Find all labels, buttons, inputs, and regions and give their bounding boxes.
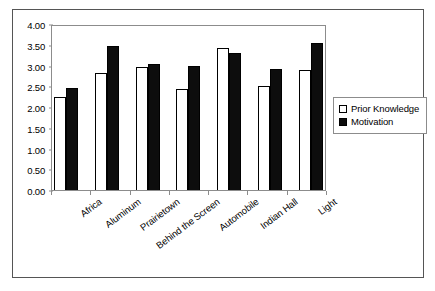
x-axis-tick-mark xyxy=(287,191,288,195)
x-axis-tick-label: Africa xyxy=(78,196,104,219)
bar-prior-knowledge xyxy=(217,48,229,190)
bar-motivation xyxy=(311,43,323,190)
chart-frame: 0.000.501.001.502.002.503.003.504.00 Afr… xyxy=(12,9,424,278)
bar-motivation xyxy=(148,64,160,190)
bar-motivation xyxy=(188,66,200,191)
legend-label: Motivation xyxy=(351,115,393,128)
x-axis-tick-mark xyxy=(90,191,91,195)
y-axis-tick-label: 3.00 xyxy=(27,61,45,72)
y-axis-tick-label: 2.00 xyxy=(27,103,45,114)
bar-group xyxy=(176,26,200,190)
bar-motivation xyxy=(270,69,282,190)
x-axis-tick-mark xyxy=(247,191,248,195)
bar-group xyxy=(95,26,119,190)
x-axis-labels: AfricaAluminumPrairietownBehind the Scre… xyxy=(51,196,326,276)
filled-square-icon xyxy=(339,118,347,126)
x-axis-tick-mark xyxy=(130,191,131,195)
x-axis-tick-mark xyxy=(326,191,327,195)
bar-prior-knowledge xyxy=(95,73,107,190)
y-axis-tick-label: 0.50 xyxy=(27,165,45,176)
hollow-square-icon xyxy=(339,105,347,113)
x-axis-tick-label: Automobile xyxy=(217,196,261,233)
bar-group xyxy=(136,26,160,190)
bar-prior-knowledge xyxy=(54,97,66,190)
bar-group xyxy=(54,26,78,190)
y-axis-tick-label: 0.00 xyxy=(27,186,45,197)
y-axis: 0.000.501.001.502.002.503.003.504.00 xyxy=(13,25,49,191)
x-axis-tick-label: Aluminum xyxy=(103,196,143,230)
bar-group xyxy=(299,26,323,190)
x-axis-tick-label: Light xyxy=(316,196,339,217)
y-axis-tick-label: 1.50 xyxy=(27,123,45,134)
x-axis-tick-label: Indian Hall xyxy=(258,196,300,231)
y-axis-tick-label: 4.00 xyxy=(27,20,45,31)
x-axis-tick-mark xyxy=(169,191,170,195)
bar-prior-knowledge xyxy=(176,89,188,190)
y-axis-tick-label: 1.00 xyxy=(27,144,45,155)
bar-motivation xyxy=(66,88,78,190)
x-axis-tick-mark xyxy=(208,191,209,195)
legend-label: Prior Knowledge xyxy=(351,102,419,115)
bar-group xyxy=(217,26,241,190)
bar-prior-knowledge xyxy=(258,86,270,190)
bar-prior-knowledge xyxy=(136,67,148,190)
y-axis-tick-label: 2.50 xyxy=(27,82,45,93)
bar-group xyxy=(258,26,282,190)
bars-layer xyxy=(52,26,325,190)
x-axis-tick-mark xyxy=(51,191,52,195)
bar-motivation xyxy=(107,46,119,190)
bar-motivation xyxy=(229,53,241,190)
legend-entry: Prior Knowledge xyxy=(339,102,421,115)
y-axis-tick-label: 3.50 xyxy=(27,40,45,51)
chart-legend: Prior KnowledgeMotivation xyxy=(333,97,427,134)
bar-prior-knowledge xyxy=(299,70,311,190)
legend-entry: Motivation xyxy=(339,115,421,128)
plot-area xyxy=(51,25,326,191)
